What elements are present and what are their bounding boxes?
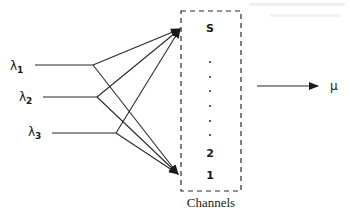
lambda-2-label: λ2 — [19, 90, 32, 106]
arrow-1-to-S — [93, 29, 180, 65]
bleed-through-text — [250, 3, 345, 17]
channel-S-label: S — [206, 22, 214, 35]
channel-1-label: 1 — [206, 169, 214, 182]
arrow-2-to-S — [97, 29, 180, 97]
queueing-diagram: λ1 λ2 λ3 S 2 1 Channels μ — [0, 0, 350, 223]
arrival-lines — [35, 65, 116, 133]
arrow-2-to-1 — [97, 97, 178, 174]
arrow-3-to-S — [116, 29, 180, 133]
channels-caption: Channels — [187, 195, 235, 210]
arrow-1-to-1 — [93, 65, 178, 174]
routing-arrows — [93, 29, 180, 174]
arrow-3-to-1 — [116, 133, 178, 174]
channel-2-label: 2 — [206, 147, 214, 160]
lambda-3-label: λ3 — [28, 125, 41, 141]
lambda-1-label: λ1 — [10, 59, 23, 75]
mu-label: μ — [330, 79, 338, 93]
channel-ellipsis — [209, 61, 211, 136]
arrival-labels: λ1 λ2 λ3 — [10, 59, 41, 141]
channels-box — [181, 11, 241, 191]
